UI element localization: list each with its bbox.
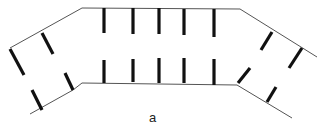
lower-bar — [32, 90, 42, 110]
figure-label: a — [149, 110, 156, 125]
upper-bar — [10, 49, 24, 75]
upper-bar — [42, 33, 53, 54]
lower-bar — [65, 73, 73, 90]
lower-boundary-line — [30, 83, 292, 118]
membrane-diagram — [0, 0, 324, 133]
lower-bar — [238, 68, 250, 83]
upper-bar — [261, 32, 272, 50]
upper-bar — [289, 48, 302, 68]
lower-bar — [267, 87, 276, 102]
upper-bars — [10, 8, 302, 75]
